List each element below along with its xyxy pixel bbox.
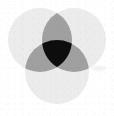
venn-diagram-canvas	[0, 0, 114, 116]
venn-diagram-figure	[0, 0, 114, 116]
